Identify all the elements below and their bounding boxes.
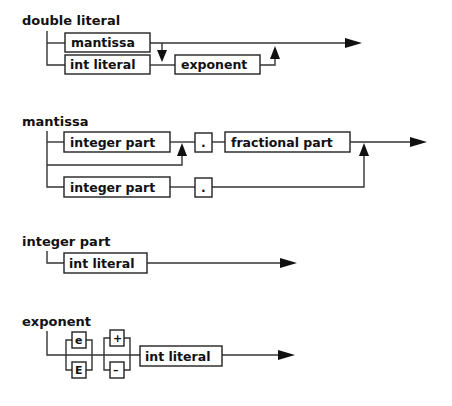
svg-text:int literal: int literal xyxy=(69,256,134,271)
arrow-right-icon xyxy=(345,38,362,48)
syntax-diagrams: double literal mantissa int literal expo… xyxy=(0,0,452,406)
svg-text:.: . xyxy=(201,180,206,195)
arrow-up-icon xyxy=(177,143,187,156)
svg-text:int literal: int literal xyxy=(145,349,210,364)
node-int-literal: int literal xyxy=(64,253,147,273)
node-int-literal: int literal xyxy=(65,55,150,74)
arrow-right-icon xyxy=(410,137,427,147)
node-minus: – xyxy=(110,362,124,378)
main-line xyxy=(47,331,140,355)
arrow-right-icon xyxy=(278,350,295,360)
arrow-down-icon xyxy=(157,50,167,62)
branch-line xyxy=(47,31,65,65)
return-line xyxy=(212,155,364,187)
svg-text:E: E xyxy=(75,364,83,377)
diagram-title: mantissa xyxy=(22,114,89,129)
svg-text:exponent: exponent xyxy=(181,57,247,72)
svg-text:integer part: integer part xyxy=(70,135,155,150)
diagram-double-literal: double literal mantissa int literal expo… xyxy=(22,13,362,74)
node-integer-part: integer part xyxy=(64,132,170,152)
node-int-literal: int literal xyxy=(140,346,222,366)
diagram-mantissa: mantissa integer part . fractional part … xyxy=(22,114,427,197)
diagram-title: exponent xyxy=(22,314,91,329)
svg-text:–: – xyxy=(113,364,119,377)
diagram-integer-part: integer part int literal xyxy=(22,234,297,273)
svg-text:+: + xyxy=(113,332,122,345)
arrow-right-icon xyxy=(280,258,297,268)
node-e-upper: E xyxy=(72,362,86,378)
svg-text:mantissa: mantissa xyxy=(71,35,135,50)
node-e-lower: e xyxy=(72,332,86,348)
node-integer-part: integer part xyxy=(64,177,170,197)
svg-text:e: e xyxy=(75,334,82,347)
diagram-title: double literal xyxy=(22,13,120,28)
svg-text:int literal: int literal xyxy=(70,57,135,72)
node-mantissa: mantissa xyxy=(65,33,150,52)
bypass-line xyxy=(47,155,182,165)
node-dot: . xyxy=(195,133,212,152)
arrow-up-icon xyxy=(270,46,280,59)
node-exponent: exponent xyxy=(175,55,260,74)
svg-text:fractional part: fractional part xyxy=(231,135,333,150)
diagram-title: integer part xyxy=(22,234,111,249)
svg-text:.: . xyxy=(201,135,206,150)
branch-line xyxy=(47,251,64,263)
node-dot: . xyxy=(195,178,212,197)
node-plus: + xyxy=(110,330,124,346)
svg-text:integer part: integer part xyxy=(70,180,155,195)
arrow-up-icon xyxy=(359,143,369,156)
branch-line xyxy=(47,131,64,187)
diagram-exponent: exponent e E + – int literal xyxy=(22,314,295,378)
node-fractional-part: fractional part xyxy=(225,132,350,152)
